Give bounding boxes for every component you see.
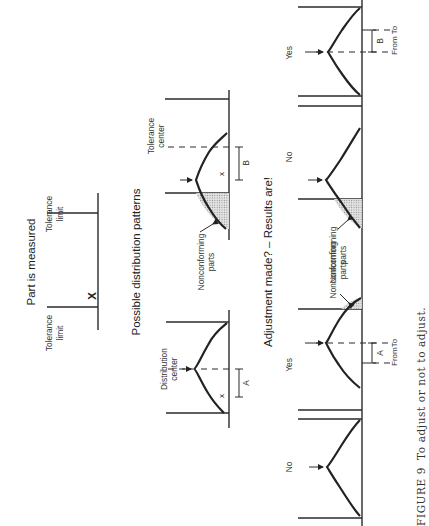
panel-a-yes: A From To Yes Nonconforming parts	[284, 241, 399, 410]
answer-no-label: No	[284, 461, 294, 472]
nonconforming-label-2: parts	[206, 253, 216, 272]
tolerance-limit-upper-label-2: limit	[55, 206, 65, 222]
nonconforming-pointer-icon	[200, 224, 213, 232]
distribution-patterns-heading: Possible distribution patterns	[130, 188, 142, 335]
tolerance-limit-lower-label-2: limit	[55, 325, 65, 341]
pattern-b-panel: x B Tolerance center Nonconforming parts	[146, 90, 251, 290]
offset-label-a: A	[241, 380, 251, 386]
pattern-a-x-mark: x	[217, 394, 226, 398]
nonconforming-pointer-icon	[338, 220, 348, 229]
from-label: From	[390, 347, 399, 366]
nonconforming-label-1: Nonconforming	[196, 233, 206, 290]
tolerance-center-label-2: center	[156, 124, 166, 147]
pattern-a-panel: x A Distribution center	[159, 310, 251, 428]
distribution-center-label-2: center	[169, 357, 179, 380]
answer-yes-label: Yes	[284, 46, 294, 60]
offset-label-b-yes: B	[375, 38, 385, 44]
figure-number: FIGURE 9	[415, 467, 427, 526]
distribution-curve-a	[194, 323, 227, 413]
panel-b-no: No Nonconforming parts	[284, 106, 362, 283]
part-measured-section: Part is measured X Tolerance limit Toler…	[25, 193, 98, 351]
answer-yes-label: Yes	[284, 358, 294, 372]
distribution-patterns-section: Possible distribution patterns x A Distr…	[130, 90, 251, 428]
from-label: From	[390, 36, 399, 55]
nonconforming-label-2: parts	[338, 261, 348, 280]
figure-caption-text: To adjust or not to adjust.	[415, 307, 427, 460]
figure-caption: FIGURE 9 To adjust or not to adjust.	[415, 307, 427, 526]
to-label: To	[390, 25, 399, 34]
adjustment-heading: Adjustment made? – Results are!	[262, 177, 274, 347]
tolerance-limit-upper-label-1: Tolerance	[44, 196, 54, 233]
figure-9-diagram: Part is measured X Tolerance limit Toler…	[0, 0, 429, 526]
distribution-center-label-1: Distribution	[159, 348, 169, 390]
nonconforming-label-1: Nonconforming	[328, 241, 338, 298]
tolerance-center-label-1: Tolerance	[146, 118, 156, 155]
nonconforming-pointer-icon	[340, 294, 349, 303]
adjustment-section: Adjustment made? – Results are! B From T…	[262, 0, 399, 526]
offset-label-b: B	[241, 160, 251, 166]
offset-label-a-yes: A	[375, 350, 385, 356]
measurement-x-mark: X	[86, 292, 98, 300]
to-label: To	[390, 338, 399, 347]
panel-a-no: No	[284, 419, 362, 518]
answer-no-label: No	[284, 151, 294, 162]
pattern-b-x-mark: x	[217, 172, 226, 176]
panel-b-yes: B From To Yes	[284, 7, 399, 96]
part-measured-heading: Part is measured	[25, 219, 37, 306]
tolerance-limit-lower-label-1: Tolerance	[44, 315, 54, 352]
